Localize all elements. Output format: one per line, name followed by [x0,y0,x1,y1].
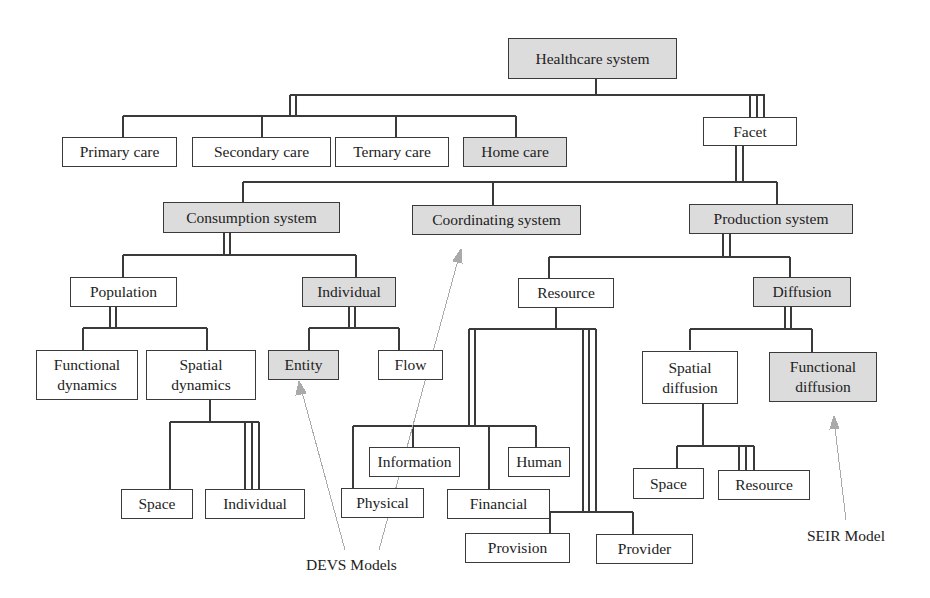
node-spatial-dynamics: Spatial dynamics [146,350,256,400]
node-facet: Facet [703,117,797,146]
annotation-seir-model: SEIR Model [807,527,885,545]
arrow-head-to-coordinating [453,249,462,263]
node-space-diffusion: Space [633,468,704,499]
node-flow: Flow [378,350,443,380]
arrow-head-to-functional-diffusion [830,416,839,429]
node-population: Population [70,277,177,307]
node-information: Information [369,447,460,477]
node-consumption-system: Consumption system [163,202,340,233]
node-resource-diffusion: Resource [718,470,810,500]
node-functional-diffusion: Functional diffusion [769,352,877,402]
node-healthcare-system: Healthcare system [508,38,677,79]
node-space-dynamics: Space [121,489,193,519]
node-diffusion: Diffusion [753,277,851,307]
node-entity: Entity [268,350,339,380]
node-individual-consumption: Individual [302,277,396,307]
node-ternary-care: Ternary care [335,137,449,167]
annotation-devs-models: DEVS Models [306,556,397,574]
node-financial: Financial [447,489,550,519]
node-home-care: Home care [463,137,567,167]
node-provider: Provider [596,534,693,564]
node-secondary-care: Secondary care [192,137,331,167]
node-individual-dynamics: Individual [205,489,305,519]
node-spatial-diffusion: Spatial diffusion [642,351,738,404]
node-primary-care: Primary care [62,137,177,167]
healthcare-system-diagram: Healthcare system Primary care Secondary… [0,0,930,598]
node-coordinating-system: Coordinating system [412,205,581,235]
node-functional-dynamics: Functional dynamics [36,350,138,400]
node-resource: Resource [518,278,614,308]
node-human: Human [508,447,570,477]
node-provision: Provision [465,533,570,563]
arrow-head-to-entity [296,381,306,395]
node-physical: Physical [341,488,424,518]
node-production-system: Production system [689,204,853,234]
